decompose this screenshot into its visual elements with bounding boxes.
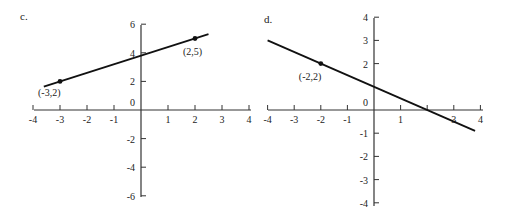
- y-tick-label: 4: [363, 12, 368, 23]
- x-tick-label: -4: [263, 114, 271, 125]
- y-tick-label: 6: [130, 19, 135, 30]
- x-tick-label: -1: [110, 114, 118, 125]
- x-tick-label: 2: [193, 114, 198, 125]
- y-tick-label: -2: [127, 134, 135, 145]
- y-tick-label: -2: [360, 151, 368, 162]
- point-label: (2,5): [183, 46, 202, 58]
- x-tick-label: -4: [29, 114, 37, 125]
- y-tick-label: 2: [363, 59, 368, 70]
- panel-label: c.: [20, 10, 28, 22]
- x-tick-label: 4: [478, 114, 483, 125]
- x-tick-label: 3: [451, 114, 456, 125]
- x-tick-label: 1: [398, 114, 403, 125]
- y-tick-label: 3: [363, 35, 368, 46]
- y-tick-label: 0: [130, 97, 135, 108]
- x-tick-label: -2: [83, 114, 91, 125]
- y-tick-label: -4: [360, 198, 368, 209]
- point-label: (-3,2): [38, 87, 61, 99]
- data-line: [44, 34, 209, 86]
- chart-canvas: c.-4-3-2-112346420-2-4-6(-3,2)(2,5)d.-4-…: [0, 0, 506, 220]
- y-tick-label: 0: [363, 97, 368, 108]
- data-point: [193, 36, 198, 41]
- x-tick-label: -1: [343, 114, 351, 125]
- y-tick-label: -3: [360, 175, 368, 186]
- x-tick-label: -3: [290, 114, 298, 125]
- chart-panel-c: c.-4-3-2-112346420-2-4-6(-3,2)(2,5): [20, 10, 252, 202]
- y-tick-label: -4: [127, 162, 135, 173]
- panel-label: d.: [264, 13, 273, 25]
- data-point: [318, 61, 323, 66]
- x-tick-label: 4: [247, 114, 252, 125]
- x-tick-label: 3: [220, 114, 225, 125]
- y-tick-label: -6: [127, 191, 135, 202]
- x-tick-label: -3: [56, 114, 64, 125]
- chart-panel-d: d.-4-3-2-11344320-1-2-3-4(-2,2): [263, 12, 483, 209]
- data-point: [58, 79, 63, 84]
- point-label: (-2,2): [299, 71, 322, 83]
- y-tick-label: 2: [130, 76, 135, 87]
- y-tick-label: -1: [360, 128, 368, 139]
- x-tick-label: 1: [166, 114, 171, 125]
- data-line: [268, 40, 475, 130]
- x-tick-label: -2: [317, 114, 325, 125]
